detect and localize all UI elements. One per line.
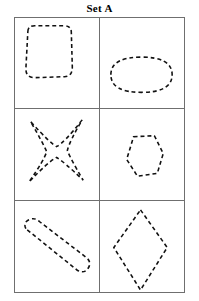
rounded-square-outline xyxy=(26,26,72,78)
rotated-rounded-rectangle-shape xyxy=(15,201,99,292)
four-pointed-star-shape xyxy=(15,109,99,200)
grid-cell-diamond xyxy=(100,201,184,292)
hexagon-shape xyxy=(100,109,184,200)
grid-cell-four-pointed-star xyxy=(15,109,100,201)
rounded-square-shape xyxy=(15,18,99,108)
ellipse-outline xyxy=(111,57,172,92)
grid-cell-ellipse xyxy=(100,18,184,109)
rotated-rounded-rectangle-outline xyxy=(25,219,90,272)
grid-cell-rotated-rounded-rectangle xyxy=(15,201,100,292)
ellipse-shape xyxy=(100,18,184,108)
hexagon-outline xyxy=(127,136,164,177)
diamond-shape xyxy=(100,201,184,292)
diamond-outline xyxy=(114,210,167,290)
grid-cell-hexagon xyxy=(100,109,184,201)
page-title: Set A xyxy=(0,1,199,15)
four-pointed-star-outline xyxy=(29,120,83,182)
shape-grid xyxy=(14,17,185,293)
grid-cell-rounded-square xyxy=(15,18,100,109)
